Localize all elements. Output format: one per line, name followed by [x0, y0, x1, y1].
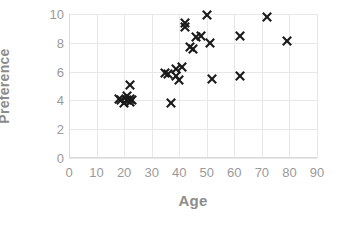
y-tick-label: 2 [57, 123, 64, 136]
data-point-marker [190, 32, 201, 43]
gridline-horizontal [69, 100, 317, 101]
x-tick-label: 30 [144, 166, 158, 179]
y-tick-label: 4 [57, 94, 64, 107]
y-tick-label: 6 [57, 65, 64, 78]
y-axis-title-text: Preference [0, 48, 12, 123]
x-tick-label: 40 [172, 166, 186, 179]
data-point-marker [124, 79, 135, 90]
scatter-plot-screenshot: 0246810 0102030405060708090 Age Preferen… [0, 0, 348, 225]
data-point-marker [196, 30, 207, 41]
plot-area [69, 14, 317, 158]
y-axis-title: Preference [0, 48, 12, 123]
data-point-marker [281, 36, 292, 47]
y-axis-tick-labels: 0246810 [38, 14, 64, 158]
y-tick-label: 8 [57, 36, 64, 49]
data-point-marker [113, 93, 124, 104]
gridline-horizontal [69, 43, 317, 44]
gridline-horizontal [69, 14, 317, 15]
x-tick-label: 60 [227, 166, 241, 179]
data-point-marker [234, 30, 245, 41]
data-point-marker [160, 68, 171, 79]
data-point-marker [207, 73, 218, 84]
x-tick-label: 0 [65, 166, 72, 179]
gridline-vertical [317, 14, 318, 158]
y-axis-line [69, 14, 70, 158]
data-point-marker [179, 21, 190, 32]
gridline-horizontal [69, 158, 317, 159]
data-point-marker [188, 43, 199, 54]
x-tick-label: 50 [200, 166, 214, 179]
y-tick-label: 0 [57, 152, 64, 165]
data-point-marker [179, 17, 190, 28]
gridline-vertical [234, 14, 235, 158]
gridline-horizontal [69, 129, 317, 130]
x-axis-title: Age [69, 192, 317, 209]
x-axis-line [69, 157, 317, 158]
gridline-vertical [262, 14, 263, 158]
x-tick-label: 20 [117, 166, 131, 179]
gridline-vertical [97, 14, 98, 158]
gridline-vertical [179, 14, 180, 158]
gridline-vertical [124, 14, 125, 158]
gridline-vertical [289, 14, 290, 158]
x-axis-tick-labels: 0102030405060708090 [69, 166, 317, 182]
x-tick-label: 80 [282, 166, 296, 179]
data-point-marker [124, 96, 135, 107]
gridline-vertical [207, 14, 208, 158]
data-point-marker [124, 93, 135, 104]
gridline-horizontal [69, 72, 317, 73]
x-tick-label: 90 [310, 166, 324, 179]
x-tick-label: 70 [255, 166, 269, 179]
gridline-vertical [152, 14, 153, 158]
y-tick-label: 10 [50, 8, 64, 21]
x-tick-label: 10 [89, 166, 103, 179]
